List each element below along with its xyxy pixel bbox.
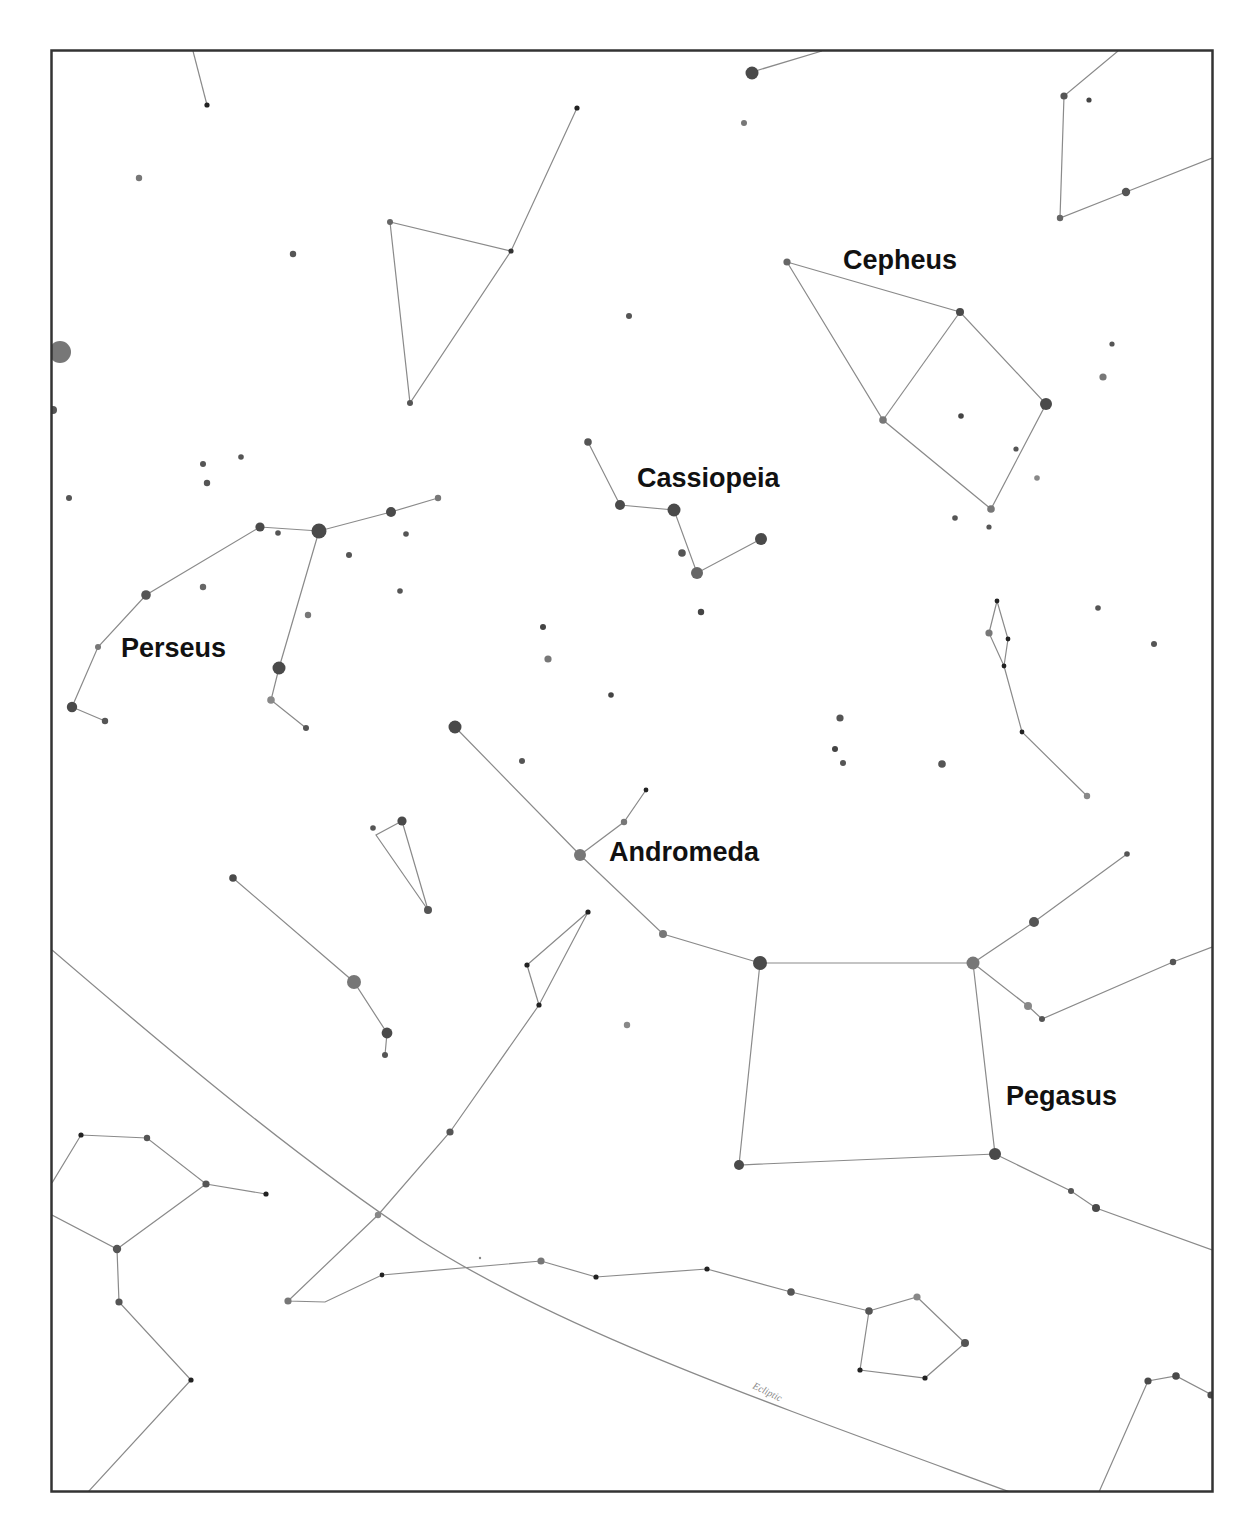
constellation-fragment-top-right bbox=[1057, 51, 1212, 221]
constellation-fragment-top-left bbox=[193, 51, 210, 108]
sky-region: Ecliptic bbox=[49, 51, 1215, 1492]
label-perseus: Perseus bbox=[121, 633, 226, 663]
constellation-aries bbox=[229, 874, 392, 1058]
constellation-perseus bbox=[67, 495, 441, 731]
label-andromeda: Andromeda bbox=[609, 837, 760, 867]
constellation-pisces bbox=[284, 909, 969, 1380]
label-cepheus: Cepheus bbox=[843, 245, 957, 275]
label-pegasus: Pegasus bbox=[1006, 1081, 1117, 1111]
constellation-pegasus bbox=[734, 851, 1212, 1250]
constellation-cetus bbox=[52, 1132, 269, 1492]
ecliptic-label: Ecliptic bbox=[750, 1379, 784, 1403]
constellation-cepheus bbox=[783, 258, 1114, 529]
constellation-fragment-right-middle bbox=[985, 599, 1090, 800]
constellation-fragment-top-center bbox=[741, 51, 822, 126]
star-chart: Ecliptic bbox=[0, 0, 1252, 1528]
constellation-triangulum bbox=[370, 816, 432, 914]
chart-frame bbox=[52, 51, 1213, 1492]
ecliptic-line bbox=[52, 950, 1010, 1492]
constellation-fragment-bottom-right bbox=[1099, 1372, 1215, 1492]
field-stars bbox=[49, 175, 1157, 1028]
label-cassiopeia: Cassiopeia bbox=[637, 463, 781, 493]
constellation-lacerta bbox=[387, 105, 580, 406]
